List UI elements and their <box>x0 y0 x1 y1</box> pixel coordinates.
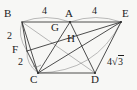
vertex-label-C: C <box>30 74 37 85</box>
vertex-label-B: B <box>4 8 11 19</box>
geometry-figure: B A E G H F C D 4 4 2 2 4√3 <box>0 0 137 90</box>
vertex-dot-A <box>69 21 71 23</box>
arc-B-A <box>22 18 70 23</box>
radical-radicand: 3 <box>118 55 124 67</box>
segment-A-D <box>70 22 95 73</box>
segment-B-C <box>22 22 38 73</box>
measure-label-FC: 2 <box>18 57 23 67</box>
vertex-dot-E <box>120 21 122 23</box>
vertex-label-A: A <box>65 8 73 19</box>
vertex-label-D: D <box>91 74 99 85</box>
measure-label-AE: 4 <box>92 6 97 16</box>
measure-label-BF: 2 <box>7 31 12 41</box>
measure-label-CE: 4√3 <box>107 57 124 67</box>
vertex-label-E: E <box>122 8 129 19</box>
vertex-dot-C <box>37 72 39 74</box>
vertex-label-H: H <box>67 33 75 44</box>
vertex-label-G: G <box>51 22 59 33</box>
radical-sign-icon: √ <box>112 56 118 67</box>
vertex-label-F: F <box>12 44 18 55</box>
measure-label-BA: 4 <box>42 6 47 16</box>
arc-A-E <box>70 18 121 23</box>
